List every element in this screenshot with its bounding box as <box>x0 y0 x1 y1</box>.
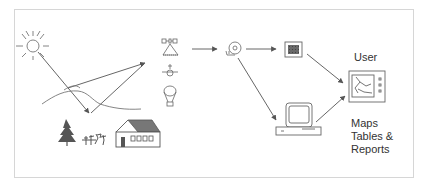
house-icon <box>116 120 160 147</box>
image-raster-icon <box>285 42 302 57</box>
reflected-ray-1 <box>68 63 145 88</box>
map-display-icon <box>349 71 385 102</box>
sun-icon <box>16 31 49 60</box>
arrow-storage-to-computer <box>238 58 276 120</box>
tape-disk-icon <box>226 42 241 55</box>
output-maps: Maps <box>351 117 411 130</box>
workflow-diagram <box>0 0 427 190</box>
arrow-computer-to-display <box>316 96 345 122</box>
satellite-icon <box>162 39 178 55</box>
computer-icon <box>276 103 321 135</box>
aircraft-icon <box>162 64 178 76</box>
incident-ray <box>38 52 89 113</box>
output-reports: Reports <box>351 143 411 156</box>
plants-icon <box>82 134 106 145</box>
balloon-icon <box>164 86 176 106</box>
arrow-image-to-display <box>307 54 343 83</box>
tree-icon <box>58 119 76 146</box>
terrain-line-1 <box>42 91 141 109</box>
reflected-ray-2 <box>91 64 144 113</box>
user-label: User <box>354 51 377 64</box>
output-tables: Tables & <box>351 130 411 143</box>
output-label: Maps Tables & Reports <box>351 117 411 156</box>
